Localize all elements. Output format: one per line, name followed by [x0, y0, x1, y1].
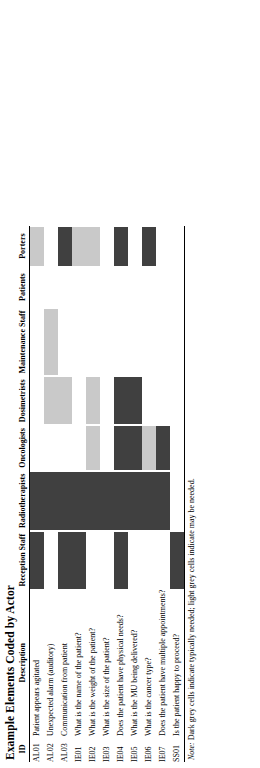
- cell-swatch-none: [142, 308, 156, 377]
- matrix-cell: [72, 376, 86, 425]
- cell-swatch-none: [100, 226, 114, 267]
- matrix-cell: [44, 425, 58, 471]
- matrix-cell: [58, 425, 72, 471]
- matrix-cell: [86, 531, 100, 590]
- matrix-cell: [30, 471, 45, 531]
- matrix-cell: [44, 376, 58, 425]
- matrix-cell: [30, 267, 45, 308]
- cell-swatch-dark: [156, 471, 170, 531]
- cell-swatch-dark: [30, 471, 44, 531]
- cell-swatch-none: [100, 531, 114, 590]
- cell-swatch-none: [100, 308, 114, 377]
- row-id: SS01: [170, 736, 185, 762]
- matrix-cell: [170, 425, 185, 471]
- matrix-cell: [114, 308, 128, 377]
- matrix-cell: [114, 226, 128, 267]
- matrix-cell: [72, 226, 86, 267]
- matrix-cell: [170, 471, 185, 531]
- cell-swatch-dark: [30, 531, 44, 590]
- row-id: IE04: [114, 736, 128, 762]
- row-description: What is the name of the patient?: [72, 590, 86, 736]
- cell-swatch-none: [170, 226, 184, 267]
- matrix-cell: [30, 425, 45, 471]
- matrix-cell: [86, 425, 100, 471]
- cell-swatch-none: [58, 267, 72, 308]
- cell-swatch-dark: [170, 531, 184, 590]
- matrix-cell: [142, 267, 156, 308]
- matrix-cell: [156, 226, 170, 267]
- matrix-cell: [142, 531, 156, 590]
- matrix-cell: [156, 425, 170, 471]
- matrix-cell: [128, 471, 142, 531]
- matrix-cell: [58, 471, 72, 531]
- row-description: Communication from patient: [58, 590, 72, 736]
- cell-swatch-dark: [58, 471, 72, 531]
- cell-swatch-dark: [72, 531, 86, 590]
- matrix-cell: [86, 308, 100, 377]
- column-header-patients: Patients: [19, 267, 30, 308]
- table-row: IE01What is the name of the patient?: [72, 226, 86, 762]
- row-description: What is the cancer type?: [142, 590, 156, 736]
- cell-swatch-none: [170, 308, 184, 377]
- cell-swatch-none: [156, 531, 170, 590]
- matrix-cell: [44, 471, 58, 531]
- cell-swatch-dark: [142, 226, 156, 267]
- matrix-cell: [128, 226, 142, 267]
- cell-swatch-none: [128, 308, 142, 377]
- matrix-cell: [30, 308, 45, 377]
- cell-swatch-none: [156, 376, 170, 425]
- matrix-cell: [58, 376, 72, 425]
- cell-swatch-none: [156, 226, 170, 267]
- matrix-cell: [128, 376, 142, 425]
- table-row: IE05What is the MU being delivered?: [128, 226, 142, 762]
- matrix-cell: [156, 267, 170, 308]
- column-header-maintenance-staff: Maintenance Staff: [19, 308, 30, 377]
- matrix-cell: [30, 226, 45, 267]
- matrix-cell: [72, 531, 86, 590]
- note-text: Dark grey cells indicate typically neede…: [187, 478, 196, 740]
- matrix-cell: [30, 531, 45, 590]
- column-header-oncologists: Oncologists: [19, 425, 30, 471]
- cell-swatch-none: [30, 267, 44, 308]
- cell-swatch-light: [44, 376, 58, 425]
- cell-swatch-none: [58, 425, 72, 471]
- table-row: IE06What is the cancer type?: [142, 226, 156, 762]
- cell-swatch-none: [100, 376, 114, 425]
- cell-swatch-dark: [114, 425, 128, 471]
- row-id: IE07: [156, 736, 170, 762]
- matrix-cell: [128, 425, 142, 471]
- cell-swatch-none: [58, 308, 72, 377]
- cell-swatch-none: [156, 267, 170, 308]
- cell-swatch-dark: [156, 425, 170, 471]
- matrix-cell: [128, 531, 142, 590]
- cell-swatch-none: [170, 376, 184, 425]
- table-row: IE02What is the weight of the patient?: [86, 226, 100, 762]
- matrix-cell: [100, 376, 114, 425]
- row-id: AL02: [44, 736, 58, 762]
- cell-swatch-none: [72, 308, 86, 377]
- row-id: IE03: [100, 736, 114, 762]
- row-id: AL01: [30, 736, 45, 762]
- cell-swatch-dark: [86, 471, 100, 531]
- cell-swatch-dark: [58, 531, 72, 590]
- cell-swatch-light: [58, 376, 72, 425]
- table-body: AL01Patient appears agitatedAL02Unexpect…: [30, 226, 185, 762]
- table-row: SS01Is the patient happy to proceed?: [170, 226, 185, 762]
- matrix-cell: [170, 376, 185, 425]
- matrix-cell: [114, 267, 128, 308]
- matrix-cell: [100, 226, 114, 267]
- matrix-cell: [30, 376, 45, 425]
- matrix-cell: [86, 471, 100, 531]
- cell-swatch-none: [100, 425, 114, 471]
- row-id: IE05: [128, 736, 142, 762]
- table-header: ID Description Reception Staff Radiother…: [19, 226, 30, 762]
- cell-swatch-dark: [100, 471, 114, 531]
- matrix-cell: [128, 267, 142, 308]
- cell-swatch-none: [170, 267, 184, 308]
- cell-swatch-none: [72, 425, 86, 471]
- column-header-radiotherapists: Radiotherapists: [19, 471, 30, 531]
- cell-swatch-none: [142, 531, 156, 590]
- cell-swatch-none: [100, 267, 114, 308]
- matrix-cell: [72, 308, 86, 377]
- matrix-cell: [44, 226, 58, 267]
